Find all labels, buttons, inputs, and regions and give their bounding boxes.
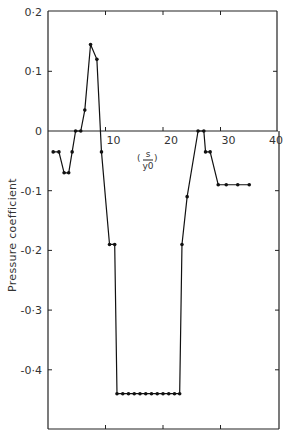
data-point: [208, 150, 212, 154]
y-tick-label: -0·2: [21, 244, 42, 257]
data-point: [108, 243, 112, 247]
data-point: [74, 129, 78, 133]
data-point: [173, 392, 177, 396]
data-point: [100, 150, 104, 154]
data-point: [70, 150, 74, 154]
pressure-coefficient-chart: 102030400·20·10-0·1-0·2-0·3-0·4 Pressure…: [0, 0, 287, 438]
data-point: [138, 392, 142, 396]
plot-frame: [48, 11, 279, 429]
data-point: [132, 392, 136, 396]
series-points: [51, 43, 251, 396]
data-point: [178, 392, 182, 396]
data-point: [62, 171, 66, 175]
x-axis-label-open-paren: (: [137, 153, 141, 163]
data-point: [95, 58, 99, 62]
y-axis-label: Pressure coefficient: [6, 178, 19, 292]
data-point: [150, 392, 154, 396]
data-point: [247, 183, 251, 187]
data-point: [57, 150, 61, 154]
data-point: [115, 392, 119, 396]
data-point: [89, 43, 93, 47]
data-point: [67, 171, 71, 175]
axis-ticks: [48, 11, 279, 429]
data-point: [202, 129, 206, 133]
y-tick-label: 0·2: [25, 6, 43, 19]
x-tick-label: 10: [107, 134, 121, 147]
data-point: [121, 392, 125, 396]
data-point: [204, 150, 208, 154]
data-point: [51, 150, 55, 154]
x-axis-label-numerator: s: [146, 149, 151, 159]
series-line: [53, 44, 249, 393]
axis-tick-labels: 102030400·20·10-0·1-0·2-0·3-0·4: [21, 6, 283, 377]
data-point: [155, 392, 159, 396]
data-point: [167, 392, 171, 396]
y-tick-label: 0·1: [25, 65, 43, 78]
y-tick-label: -0·1: [21, 185, 42, 198]
data-point: [224, 183, 228, 187]
data-point: [236, 183, 240, 187]
y-tick-label: -0·3: [21, 304, 42, 317]
data-point: [127, 392, 131, 396]
data-point: [180, 243, 184, 247]
data-point: [144, 392, 148, 396]
data-point: [113, 243, 117, 247]
x-axis-label-close-paren: ): [154, 153, 158, 163]
x-tick-label: 40: [269, 134, 283, 147]
data-point: [216, 183, 220, 187]
data-point: [161, 392, 165, 396]
y-tick-label: -0·4: [21, 364, 42, 377]
x-axis-label-denominator: y0: [142, 161, 153, 171]
x-tick-label: 20: [164, 134, 178, 147]
data-point: [185, 195, 189, 199]
data-point: [83, 108, 87, 112]
y-tick-label: 0: [35, 125, 42, 138]
data-point: [79, 129, 83, 133]
x-axis-label: ( s y0 ): [137, 149, 158, 171]
x-tick-label: 30: [222, 134, 236, 147]
data-point: [196, 129, 200, 133]
